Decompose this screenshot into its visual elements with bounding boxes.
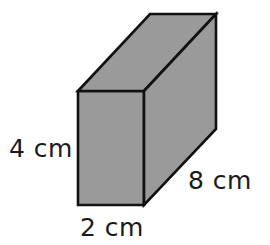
cuboid-front-face bbox=[78, 91, 144, 205]
cuboid-illustration bbox=[0, 0, 270, 245]
dimension-label-width: 2 cm bbox=[80, 215, 144, 240]
dimension-label-height: 4 cm bbox=[9, 136, 73, 161]
dimension-label-depth: 8 cm bbox=[188, 168, 252, 193]
figure-root: 4 cm 2 cm 8 cm bbox=[0, 0, 270, 245]
